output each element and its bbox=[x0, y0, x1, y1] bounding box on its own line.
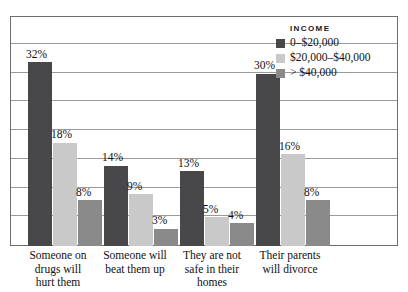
category-label-line: hurt them bbox=[12, 276, 104, 290]
category-label-line: will divorce bbox=[244, 263, 336, 277]
legend-swatch-income-low bbox=[276, 39, 285, 48]
grouped-bar-chart: 32%18%8%14%9%3%13%5%4%30%16%8% INCOME 0–… bbox=[0, 0, 408, 292]
category-label-line: Their parents bbox=[244, 249, 336, 263]
gridline bbox=[11, 129, 397, 130]
category-label: Their parentswill divorce bbox=[244, 249, 336, 276]
legend-swatch-income-mid bbox=[276, 54, 285, 63]
legend-label-income-low: 0–$20,000 bbox=[290, 37, 339, 49]
legend-label-income-mid: $20,000–$40,000 bbox=[290, 52, 371, 64]
gridline bbox=[11, 187, 397, 188]
legend: INCOME 0–$20,000 $20,000–$40,000 > $40,0… bbox=[276, 24, 402, 81]
legend-item-1: $20,000–$40,000 bbox=[276, 51, 402, 65]
legend-item-0: 0–$20,000 bbox=[276, 36, 402, 50]
legend-title: INCOME bbox=[290, 24, 402, 33]
gridline bbox=[11, 158, 397, 159]
category-axis-labels: Someone ondrugs willhurt themSomeone wil… bbox=[10, 249, 398, 292]
gridline bbox=[11, 215, 397, 216]
legend-item-2: > $40,000 bbox=[276, 66, 402, 80]
category-label-line: homes bbox=[166, 276, 258, 290]
legend-label-income-high: > $40,000 bbox=[290, 67, 337, 79]
gridline bbox=[11, 100, 397, 101]
legend-swatch-income-high bbox=[276, 69, 285, 78]
